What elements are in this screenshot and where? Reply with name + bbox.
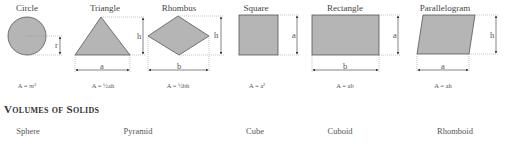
rhombus-figure bbox=[148, 16, 224, 72]
solid-sphere: Sphere bbox=[16, 126, 40, 136]
solid-cube: Cube bbox=[246, 126, 264, 136]
rhombus-formula: A = ½bh bbox=[167, 82, 190, 89]
rectangle-label-b: b bbox=[343, 61, 347, 71]
circle-label-r: r bbox=[55, 40, 58, 50]
triangle-figure bbox=[75, 17, 145, 72]
rhombus-label-h: h bbox=[214, 30, 218, 40]
circle-formula: A = πr² bbox=[18, 82, 37, 89]
rectangle-label-a: a bbox=[393, 30, 397, 40]
solid-rhomboid: Rhomboid bbox=[437, 126, 473, 136]
parallelogram-formula: A = ah bbox=[434, 82, 451, 89]
rectangle-formula: A = ab bbox=[336, 82, 353, 89]
square-figure bbox=[239, 15, 299, 55]
square-formula: A = a² bbox=[249, 82, 265, 89]
solid-pyramid: Pyramid bbox=[124, 126, 153, 136]
parallelogram-figure bbox=[417, 15, 498, 72]
rhombus-label-b: b bbox=[177, 61, 181, 71]
triangle-formula: A = ½ah bbox=[92, 82, 114, 89]
area-figures bbox=[0, 0, 505, 80]
triangle-label-h: h bbox=[137, 31, 141, 41]
circle-figure bbox=[8, 17, 62, 55]
solid-cuboid: Cuboid bbox=[327, 126, 352, 136]
parallelogram-label-h: h bbox=[490, 30, 494, 40]
volumes-heading: Volumes of Solids bbox=[4, 103, 99, 115]
triangle-label-a: a bbox=[100, 61, 104, 71]
square-label-a: a bbox=[292, 30, 296, 40]
parallelogram-label-a: a bbox=[441, 61, 445, 71]
rectangle-figure bbox=[312, 15, 400, 72]
